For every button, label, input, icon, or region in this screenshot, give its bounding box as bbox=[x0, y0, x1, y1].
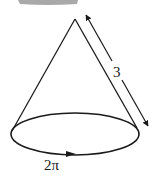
slant-height-arrow-lower bbox=[122, 80, 148, 126]
circumference-arrow-icon bbox=[66, 151, 76, 157]
cone-base-ellipse bbox=[11, 113, 139, 155]
cone-left-side bbox=[12, 19, 75, 131]
cone-right-side bbox=[75, 19, 137, 128]
cone-diagram: 3 2π bbox=[0, 0, 160, 179]
slant-height-label: 3 bbox=[113, 64, 121, 80]
base-circumference-label: 2π bbox=[44, 157, 60, 173]
slant-height-arrow-upper bbox=[86, 15, 112, 61]
top-gray-bar bbox=[18, 0, 78, 5]
